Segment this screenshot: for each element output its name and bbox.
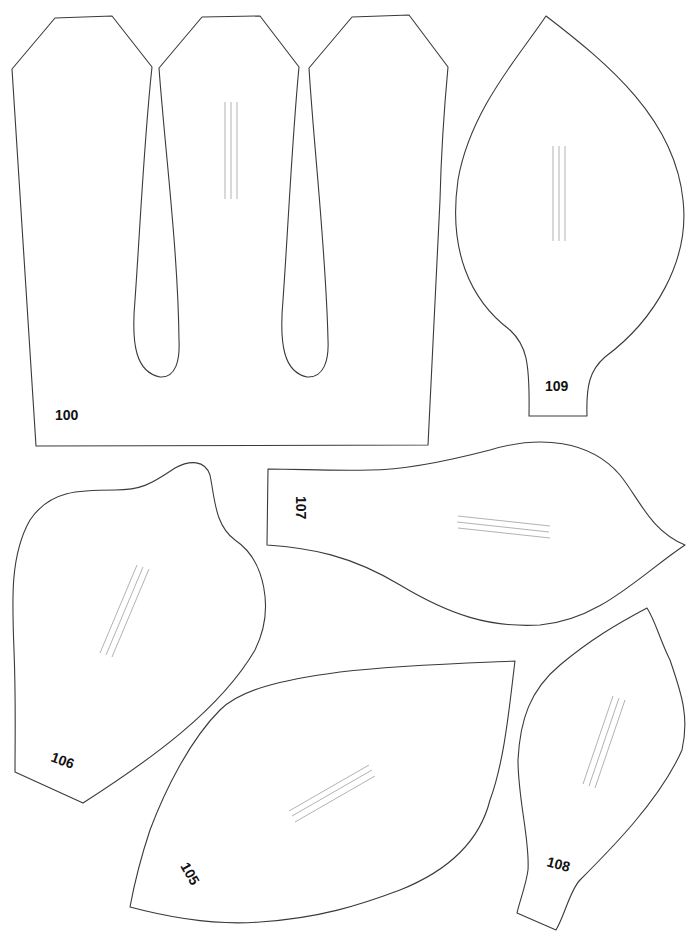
piece-100-label: 100 (55, 407, 79, 423)
piece-107-outline (267, 442, 685, 625)
piece-100: 100 (12, 15, 448, 446)
piece-109: 109 (456, 16, 684, 416)
piece-108-outline (517, 608, 685, 930)
piece-107-label: 107 (293, 496, 309, 520)
piece-109-label: 109 (545, 378, 569, 394)
piece-108: 108 (517, 608, 685, 930)
piece-107: 107 (267, 442, 685, 625)
petal-template-sheet: 100 109 107 106 (0, 0, 699, 942)
piece-109-outline (456, 16, 684, 416)
piece-100-outline (12, 15, 448, 446)
